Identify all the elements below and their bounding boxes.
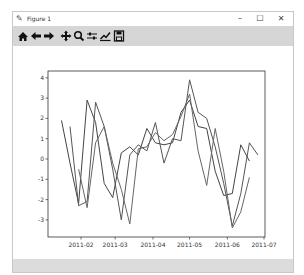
status-bar <box>13 259 293 272</box>
plot-frame <box>48 71 265 237</box>
forward-button[interactable] <box>43 29 55 43</box>
y-tick-label: -1 <box>38 175 44 182</box>
title-bar[interactable]: ✎ Figure 1 – ☐ ✕ <box>13 12 293 26</box>
edit-axis-button[interactable] <box>99 29 111 43</box>
x-tick-label: 2011-06 <box>215 241 240 248</box>
sliders-icon <box>86 29 98 43</box>
navigation-toolbar <box>13 26 293 46</box>
minimize-button[interactable]: – <box>233 13 247 25</box>
y-tick-label: 2 <box>40 114 44 121</box>
x-tick-label: 2011-04 <box>140 241 165 248</box>
y-tick-label: 1 <box>40 135 44 142</box>
arrow-right-icon <box>43 29 55 43</box>
line-chart: -3-2-1012342011-022011-032011-042011-052… <box>13 46 293 260</box>
arrow-left-icon <box>30 29 42 43</box>
y-tick-label: -2 <box>38 196 44 203</box>
home-icon <box>17 29 29 43</box>
app-icon: ✎ <box>16 14 25 23</box>
back-button[interactable] <box>30 29 42 43</box>
y-tick-label: 3 <box>40 94 44 101</box>
line-chart-icon <box>99 29 111 43</box>
move-icon <box>60 29 72 43</box>
save-button[interactable] <box>113 29 125 43</box>
y-tick-label: -3 <box>38 216 44 223</box>
series-line-2 <box>70 80 258 226</box>
maximize-button[interactable]: ☐ <box>253 13 267 25</box>
close-button[interactable]: ✕ <box>274 13 288 25</box>
x-tick-label: 2011-03 <box>103 241 128 248</box>
pan-button[interactable] <box>60 29 72 43</box>
configure-subplots-button[interactable] <box>86 29 98 43</box>
x-tick-label: 2011-05 <box>177 241 202 248</box>
home-button[interactable] <box>17 29 29 43</box>
x-tick-label: 2011-02 <box>68 241 93 248</box>
x-tick-label: 2011-07 <box>251 241 276 248</box>
save-icon <box>113 29 125 43</box>
zoom-button[interactable] <box>73 29 85 43</box>
y-tick-label: 4 <box>40 74 44 81</box>
window-title: Figure 1 <box>27 14 51 23</box>
figure-window: ✎ Figure 1 – ☐ ✕ -3-2-10123420 <box>12 11 294 273</box>
y-tick-label: 0 <box>40 155 44 162</box>
figure-canvas[interactable]: -3-2-1012342011-022011-032011-042011-052… <box>13 46 293 260</box>
zoom-icon <box>73 29 85 43</box>
